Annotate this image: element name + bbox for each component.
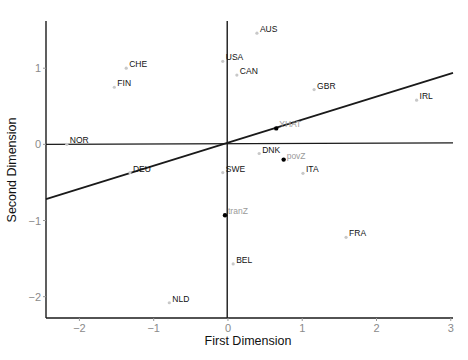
point-label: FIN (117, 78, 131, 88)
variable-point: povZ (281, 151, 305, 162)
point-marker (221, 171, 224, 174)
point-marker (128, 171, 131, 174)
point-marker (415, 99, 418, 102)
point-marker (221, 60, 224, 63)
x-tick-label: 1 (299, 322, 305, 334)
y-tick-label: −2 (28, 291, 41, 303)
point-marker (281, 157, 285, 161)
x-tick-label: 2 (373, 322, 379, 334)
country-point: SWE (221, 164, 245, 175)
point-marker (235, 73, 238, 76)
country-point: ITA (301, 164, 319, 175)
point-marker (258, 152, 261, 155)
x-tick-label: 0 (225, 322, 231, 334)
y-tick-label: 1 (35, 62, 41, 74)
point-label: FRA (349, 228, 366, 238)
country-point: IRL (415, 91, 433, 102)
horizontal-zero-line (46, 143, 453, 145)
y-tick-label: −1 (28, 215, 41, 227)
point-label: DNK (262, 145, 280, 155)
point-label: IRL (420, 91, 434, 101)
point-marker (168, 301, 171, 304)
country-point: CHE (125, 59, 148, 70)
x-axis-title: First Dimension (205, 334, 292, 348)
country-point: CAN (235, 66, 258, 77)
point-label: CHE (129, 59, 147, 69)
point-marker (223, 213, 227, 217)
point-marker (232, 262, 235, 265)
point-label: YHAT (279, 119, 301, 129)
point-marker (301, 172, 304, 175)
point-label: USA (226, 52, 244, 62)
country-point: GBR (313, 81, 336, 92)
point-marker (65, 143, 68, 146)
country-point: FIN (113, 78, 131, 89)
country-point: BEL (232, 255, 253, 266)
point-marker (125, 67, 128, 70)
yhat-direction-line (46, 73, 453, 199)
point-marker (344, 236, 347, 239)
point-marker (274, 126, 278, 130)
point-label: CAN (240, 66, 258, 76)
point-label: ITA (306, 164, 319, 174)
point-label: NLD (172, 294, 189, 304)
data-points: AUSUSACANGBRIRLCHEFINNORDEUDNKSWEITABELF… (65, 24, 433, 304)
country-point: NLD (168, 294, 190, 305)
scatter-chart: −2−10123 −2−101 AUSUSACANGBRIRLCHEFINNOR… (0, 0, 468, 360)
y-axis-ticks: −2−101 (28, 62, 46, 302)
y-axis-title: Second Dimension (5, 117, 19, 222)
point-marker (255, 32, 258, 35)
country-point: FRA (344, 228, 366, 239)
x-tick-label: −2 (73, 322, 86, 334)
point-label: DEU (133, 164, 151, 174)
point-label: SWE (226, 164, 246, 174)
x-tick-label: 3 (448, 322, 454, 334)
point-label: BEL (236, 255, 252, 265)
point-label: AUS (260, 24, 278, 34)
point-marker (113, 86, 116, 89)
point-label: NOR (70, 135, 89, 145)
point-marker (313, 88, 316, 91)
point-label: povZ (287, 151, 306, 161)
y-tick-label: 0 (35, 138, 41, 150)
x-tick-label: −1 (147, 322, 160, 334)
variable-point: YHAT (274, 119, 301, 130)
point-label: GBR (317, 81, 335, 91)
x-axis-ticks: −2−10123 (73, 318, 454, 334)
country-point: USA (221, 52, 243, 63)
country-point: DNK (258, 145, 281, 156)
country-point: AUS (255, 24, 277, 35)
point-label: tranZ (228, 206, 248, 216)
